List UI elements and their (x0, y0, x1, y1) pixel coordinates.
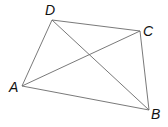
vertex-label-a: A (8, 79, 18, 95)
side-bc (140, 31, 149, 110)
vertex-label-c: C (143, 23, 154, 39)
side-cd (52, 20, 140, 31)
side-ab (22, 86, 149, 110)
vertex-label-d: D (45, 2, 55, 18)
side-da (22, 20, 52, 86)
diagonal-ac (22, 31, 140, 86)
quadrilateral-diagram: D C B A (0, 0, 168, 127)
vertex-label-b: B (151, 106, 160, 122)
